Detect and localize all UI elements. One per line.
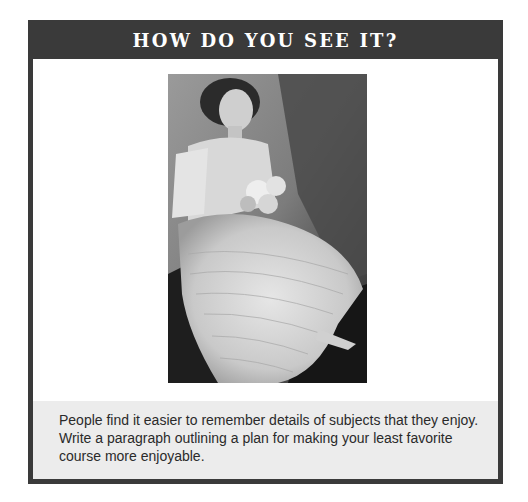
prompt-text: People find it easier to remember detail… bbox=[59, 411, 489, 465]
feature-title: HOW DO YOU SEE IT? bbox=[133, 28, 399, 51]
vintage-portrait-photo bbox=[168, 74, 367, 383]
prompt-panel: People find it easier to remember detail… bbox=[33, 401, 498, 479]
portrait-image-icon bbox=[168, 74, 367, 383]
feature-header: HOW DO YOU SEE IT? bbox=[28, 20, 503, 59]
feature-box: HOW DO YOU SEE IT? bbox=[28, 20, 503, 484]
